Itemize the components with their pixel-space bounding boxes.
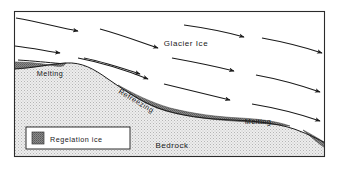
legend-swatch-regelation-ice <box>32 132 44 144</box>
diagram-canvas: Glacier Ice Bedrock Refreezing Melting M… <box>0 0 338 171</box>
legend-label-regelation-ice: Regelation ice <box>50 135 103 144</box>
glacier-diagram-figure: Glacier Ice Bedrock Refreezing Melting M… <box>0 0 338 171</box>
legend: Regelation ice <box>26 127 130 149</box>
label-glacier-ice: Glacier Ice <box>164 39 208 48</box>
label-bedrock: Bedrock <box>155 141 189 150</box>
label-melting-left: Melting <box>37 69 64 78</box>
label-melting-right: Melting <box>245 117 272 126</box>
